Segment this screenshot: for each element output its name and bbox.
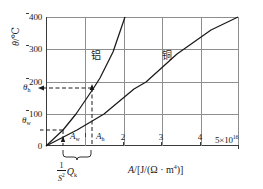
curve-label-copper: 铜 (162, 51, 172, 61)
factor-qk: Qk (66, 167, 77, 178)
fraction-one-over-s-squared: 1 S2 (57, 162, 66, 183)
curves-overlay (0, 0, 263, 189)
curve-copper (46, 17, 238, 146)
brace-formula: 1 S2 Qk (57, 162, 77, 183)
region-label-ah: Ah (96, 132, 105, 144)
arrow-theta-h (38, 86, 44, 91)
curve-aluminium (46, 17, 125, 146)
region-label-aw: Aw (70, 132, 80, 144)
span-brace (63, 150, 91, 160)
thermal-energy-chart: 400 300 200 100 0 θh θw 2 3 4 5×10216 θ/… (0, 0, 263, 189)
curve-label-aluminium: 铝 (91, 51, 101, 61)
